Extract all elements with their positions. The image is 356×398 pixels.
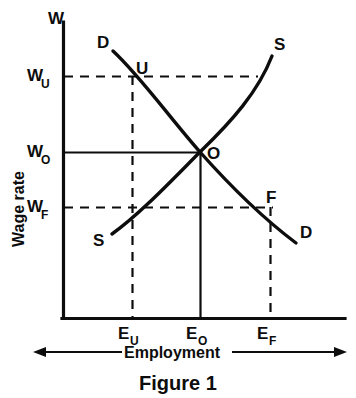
- x-tick-eu-main: E: [118, 324, 129, 343]
- x-tick-ef-main: E: [257, 324, 268, 343]
- x-tick-label-ef: E F: [257, 324, 276, 348]
- figure-container: D D S S U O F W W U W O W F E U E O: [0, 0, 356, 398]
- y-tick-label-wf: W F: [27, 197, 48, 222]
- point-label-u: U: [136, 59, 148, 78]
- figure-caption: Figure 1: [139, 372, 217, 394]
- chart-axes: [62, 22, 345, 319]
- x-axis-title-group: Employment: [33, 344, 347, 361]
- y-tick-label-wu: W U: [27, 66, 50, 91]
- horizontal-guides: [64, 77, 273, 208]
- x-axis-arrow-left-head: [33, 347, 46, 357]
- economics-supply-demand-chart: D D S S U O F W W U W O W F E U E O: [0, 0, 356, 398]
- y-tick-wo-sub: O: [41, 153, 50, 167]
- supply-curve-label-bottom: S: [93, 231, 104, 250]
- x-tick-ef-sub: F: [269, 334, 276, 348]
- y-tick-label-wo: W O: [27, 142, 50, 167]
- y-axis-title: Wage rate: [10, 171, 27, 247]
- point-label-f: F: [266, 188, 276, 207]
- x-axis-arrow-right-head: [334, 347, 347, 357]
- supply-curve-label-top: S: [274, 35, 285, 54]
- demand-curve-label-bottom: D: [300, 223, 312, 242]
- y-tick-wu-sub: U: [41, 77, 50, 91]
- y-tick-wf-sub: F: [41, 208, 48, 222]
- point-label-o: O: [207, 144, 220, 163]
- demand-curve-label-top: D: [97, 33, 109, 52]
- y-axis-top-label: W: [48, 9, 65, 28]
- x-axis-title: Employment: [124, 344, 221, 361]
- x-tick-eo-main: E: [186, 324, 197, 343]
